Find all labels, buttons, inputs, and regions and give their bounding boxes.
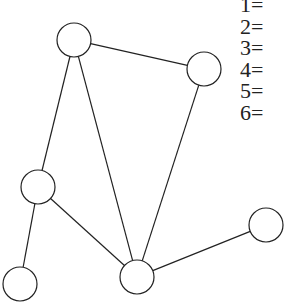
legend-item-3: 3= xyxy=(240,37,263,59)
legend-item-6: 6= xyxy=(240,102,263,124)
edge-n3-n6 xyxy=(51,198,125,265)
edge-n1-n3 xyxy=(42,57,70,171)
node-n5 xyxy=(3,267,37,301)
node-n4 xyxy=(249,208,283,242)
legend-item-4: 4= xyxy=(240,59,263,81)
edge-n6-n4 xyxy=(153,231,250,270)
edge-n3-n5 xyxy=(23,204,35,268)
edge-n1-n6 xyxy=(78,56,132,260)
edge-n1-n2 xyxy=(91,44,188,66)
edge-n2-n6 xyxy=(142,85,199,261)
node-n6 xyxy=(120,260,154,294)
legend-item-2: 2= xyxy=(240,16,263,38)
node-n3 xyxy=(21,170,55,204)
node-n2 xyxy=(187,52,221,86)
legend: 1= 2= 3= 4= 5= 6= xyxy=(240,0,263,123)
node-n1 xyxy=(57,23,91,57)
legend-item-5: 5= xyxy=(240,80,263,102)
